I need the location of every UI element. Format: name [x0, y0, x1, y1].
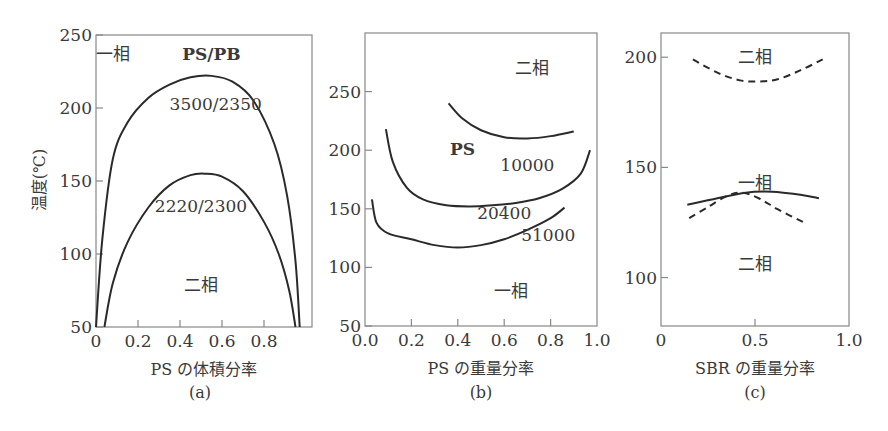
annotation-label: 2220/2300 — [155, 196, 247, 216]
series-curve-20400 — [386, 129, 590, 206]
annotation-label: 一相 — [96, 44, 130, 64]
annotation-label: PS — [450, 139, 475, 159]
y-tick-label: 150 — [60, 171, 92, 191]
annotation-label: 51000 — [521, 225, 575, 245]
panel-a: 5010015020025000.20.40.60.8PS の体積分率一相PS/… — [60, 25, 312, 379]
x-tick-label: 0.6 — [208, 331, 235, 351]
x-tick-label: 1.0 — [583, 330, 610, 350]
y-tick-label: 150 — [625, 157, 657, 177]
x-tick-label: 0.4 — [166, 331, 193, 351]
x-tick-label: 0.5 — [741, 330, 768, 350]
y-tick-label: 250 — [329, 82, 361, 102]
y-tick-label: 200 — [625, 47, 657, 67]
panel-label-c: (c) — [744, 383, 765, 402]
y-tick-label: 200 — [60, 98, 92, 118]
x-tick-label: 0.4 — [444, 330, 471, 350]
y-tick-label: 100 — [625, 268, 657, 288]
x-tick-label: 0.6 — [491, 330, 518, 350]
annotation-label: 二相 — [515, 58, 549, 78]
x-tick-label: 0.8 — [250, 331, 277, 351]
annotation-label: 二相 — [184, 275, 218, 295]
panel-label-b: (b) — [470, 383, 493, 402]
series-curve-lower-dashed — [689, 193, 804, 223]
y-tick-label: 50 — [70, 317, 92, 337]
y-tick-label: 100 — [329, 257, 361, 277]
annotation-label: 一相 — [494, 281, 528, 301]
y-tick-label: 150 — [329, 199, 361, 219]
x-tick-label: 0.0 — [351, 330, 378, 350]
series-curve-lower-solid — [687, 192, 819, 205]
chart-canvas: 5010015020025000.20.40.60.8PS の体積分率一相PS/… — [0, 0, 888, 431]
annotation-label: 3500/2350 — [170, 94, 262, 114]
x-tick-label: 1.0 — [835, 330, 862, 350]
phase-diagram-figure: 5010015020025000.20.40.60.8PS の体積分率一相PS/… — [0, 0, 888, 431]
annotation-label: 一相 — [738, 173, 772, 193]
y-tick-label: 200 — [329, 140, 361, 160]
x-tick-label: 0 — [91, 331, 102, 351]
x-axis-label: PS の体積分率 — [151, 360, 258, 379]
x-tick-label: 0.2 — [398, 330, 425, 350]
annotation-label: 20400 — [477, 203, 531, 223]
annotation-label: PS/PB — [182, 44, 240, 64]
plot-frame — [365, 33, 597, 326]
panel-label-a: (a) — [189, 383, 211, 402]
y-axis-label: 温度(℃) — [30, 149, 49, 211]
x-tick-label: 0.2 — [124, 331, 151, 351]
y-tick-label: 250 — [60, 25, 92, 45]
y-tick-label: 100 — [60, 244, 92, 264]
annotation-label: 二相 — [738, 47, 772, 67]
annotation-label: 二相 — [738, 254, 772, 274]
panel-c: 10015020000.51.0SBR の重量分率二相一相二相 — [625, 33, 863, 378]
x-axis-label: PS の重量分率 — [428, 359, 535, 378]
series-curve-10000 — [449, 103, 574, 138]
x-axis-label: SBR の重量分率 — [695, 359, 815, 378]
annotation-label: 10000 — [500, 155, 554, 175]
x-tick-label: 0 — [656, 330, 667, 350]
x-tick-label: 0.8 — [537, 330, 564, 350]
panel-b: 501001502002500.00.20.40.60.81.0PS の重量分率… — [329, 33, 611, 378]
